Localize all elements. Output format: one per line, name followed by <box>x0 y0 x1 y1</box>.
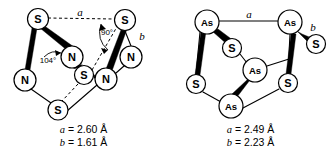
caption-symbol-b: b <box>227 137 232 148</box>
caption-line-b: b = 2.23 Å <box>167 136 334 149</box>
atom-node: S <box>187 75 206 94</box>
caption-value-a: = 2.60 Å <box>68 123 107 135</box>
atom-node: S <box>48 100 68 120</box>
measure-label-b: b <box>310 21 316 33</box>
caption-line-b: b = 1.61 Å <box>0 136 167 149</box>
measure-label-a: a <box>246 8 252 20</box>
atom-node: N <box>14 69 36 91</box>
caption-value-b: = 2.23 Å <box>235 136 274 148</box>
caption-symbol-b: b <box>60 137 65 148</box>
bond-s-n-bottomright <box>67 85 97 111</box>
bond-n-s-bottom <box>31 89 51 103</box>
wedge-bond-as-s-right-col <box>286 34 296 74</box>
panel-as4s4: As As S S As S <box>167 0 334 155</box>
atom-label-s-top-left: S <box>34 13 41 25</box>
caption-line-a: a = 2.60 Å <box>0 123 167 136</box>
atom-node: S <box>75 66 94 85</box>
bond-n-to-n-right <box>116 66 124 73</box>
panel-s4n4: S S N N N S N <box>0 0 167 155</box>
caption-symbol-a: a <box>227 124 232 135</box>
atom-node: N <box>95 68 117 90</box>
atom-label-as-top-left: As <box>201 17 213 28</box>
atom-node: As <box>278 10 302 34</box>
contact-dashed-s-to-s <box>62 84 78 101</box>
bond-as-bottom-to-s-right <box>243 89 279 108</box>
wedge-bond-as-s-left-col <box>195 31 206 75</box>
atom-label-s-upper-mid: S <box>228 42 235 54</box>
atom-node: As <box>195 10 219 34</box>
atom-label-s-left: S <box>192 78 199 90</box>
atom-label-n-lower-right: N <box>102 73 110 85</box>
atom-node: N <box>120 46 142 68</box>
wedge-bond-s-to-n-left <box>25 28 37 70</box>
atom-node: As <box>243 58 267 82</box>
atom-label-n-upper-mid: N <box>68 51 76 63</box>
caption-value-b: = 1.61 Å <box>68 136 107 148</box>
molecular-structure-figure: S S N N N S N <box>0 0 334 155</box>
atom-node: N <box>61 46 83 68</box>
bond-b-s-to-n <box>125 31 131 46</box>
caption-value-a: = 2.49 Å <box>235 123 274 135</box>
atom-label-n-left: N <box>21 74 29 86</box>
caption-symbol-a: a <box>60 124 65 135</box>
atom-label-as-center: As <box>249 65 261 76</box>
angle-label-90: 90° <box>101 28 113 37</box>
atom-label-n-right: N <box>127 51 135 63</box>
atom-node: S <box>279 74 298 93</box>
caption-line-a: a = 2.49 Å <box>167 123 334 136</box>
atom-node: S <box>307 35 326 54</box>
angle-label-104: 104° <box>40 56 57 65</box>
atom-node: S <box>223 39 242 58</box>
atom-label-as-bottom: As <box>225 101 237 112</box>
atom-label-s-right: S <box>312 38 319 50</box>
measure-label-a: a <box>77 6 83 18</box>
measure-label-b: b <box>139 30 145 42</box>
atom-label-s-top-right: S <box>121 14 128 26</box>
atom-node: S <box>115 10 136 31</box>
atom-label-s-bottom: S <box>54 104 61 116</box>
caption-as4s4: a = 2.49 Å b = 2.23 Å <box>167 123 334 149</box>
atom-label-s-lower-right: S <box>284 77 291 89</box>
bond-as-center-to-s-right <box>267 59 289 66</box>
atom-node: As <box>219 94 243 118</box>
bond-s-left-to-as-bottom <box>203 92 221 102</box>
atom-node: S <box>28 9 49 30</box>
contact-a-dashed <box>48 18 114 19</box>
atom-label-as-top-right: As <box>284 17 296 28</box>
atom-label-s-center: S <box>80 69 87 81</box>
caption-s4n4: a = 2.60 Å b = 1.61 Å <box>0 123 167 149</box>
